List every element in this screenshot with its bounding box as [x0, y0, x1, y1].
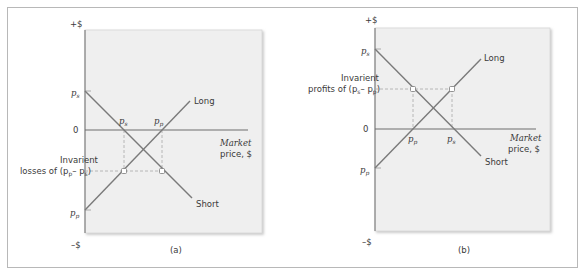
marker-ps-a: [122, 169, 127, 174]
annotation-line1-b: Invarient: [341, 73, 380, 83]
y-axis-top-label-a: +$: [70, 19, 83, 29]
caption-a: (a): [170, 245, 182, 255]
panel-a: +$ –$ 0 ps pp ps pp Invarient losses of …: [20, 19, 262, 255]
long-label-b: Long: [484, 53, 505, 63]
short-label-a: Short: [196, 199, 219, 209]
futures-payoff-diagram: +$ –$ 0 ps pp ps pp Invarient losses of …: [0, 0, 583, 275]
marker-pp-a: [160, 169, 165, 174]
short-label-b: Short: [485, 157, 508, 167]
y-label-pp-b: pp: [360, 165, 369, 177]
panel-b: +$ –$ 0 ps pp pp ps Invarient profits of…: [308, 15, 550, 255]
annotation-line2-b: profits of (ps– pp): [308, 84, 380, 96]
y-label-pp-a: pp: [70, 208, 79, 220]
plot-area-a: [85, 30, 262, 233]
y-axis-bottom-label-b: –$: [362, 237, 372, 247]
zero-label-a: 0: [73, 125, 78, 135]
marker-ps-b: [450, 87, 455, 92]
caption-b: (b): [458, 245, 470, 255]
zero-label-b: 0: [363, 124, 368, 134]
x-axis-label-line2-b: price, $: [508, 144, 540, 154]
annotation-line1-a: Invarient: [60, 155, 99, 165]
marker-pp-b: [411, 87, 416, 92]
x-axis-label-line1-b: Market: [509, 133, 542, 143]
y-axis-top-label-b: +$: [365, 15, 378, 25]
y-axis-bottom-label-a: –$: [71, 240, 81, 250]
x-axis-label-line2-a: price, $: [220, 149, 252, 159]
y-label-ps-a: ps: [71, 88, 80, 99]
long-label-a: Long: [194, 96, 215, 106]
x-axis-label-line1-a: Market: [219, 138, 252, 148]
annotation-line2-a: losses of (pp– ps): [20, 166, 91, 178]
y-label-ps-b: ps: [361, 46, 370, 57]
